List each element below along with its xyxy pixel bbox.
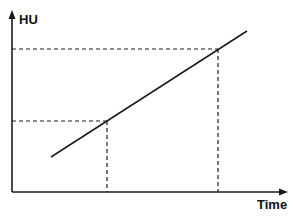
y-axis-label: HU bbox=[19, 12, 38, 27]
hu-time-diagram: HU Time bbox=[0, 0, 293, 218]
x-axis-arrow-icon bbox=[279, 189, 288, 196]
y-axis-arrow-icon bbox=[9, 10, 16, 19]
x-axis-label: Time bbox=[257, 197, 287, 212]
